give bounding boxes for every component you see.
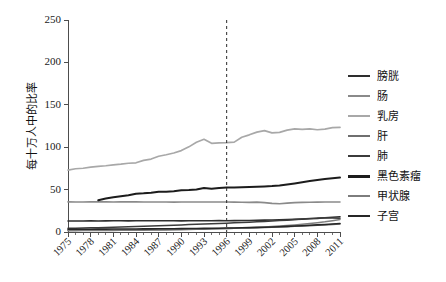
series-line bbox=[68, 202, 340, 204]
x-tick-label: 1990 bbox=[164, 236, 187, 259]
y-tick-label: 250 bbox=[45, 13, 62, 25]
x-tick-label: 2002 bbox=[255, 236, 278, 259]
legend-item[interactable]: 乳房 bbox=[348, 106, 444, 126]
x-tick-label: 1993 bbox=[187, 236, 210, 259]
legend-line-swatch bbox=[348, 175, 370, 178]
y-axis-label: 每十万人中的比率 bbox=[25, 82, 38, 170]
x-tick-label: 1981 bbox=[96, 236, 119, 259]
legend-item[interactable]: 甲状腺 bbox=[348, 186, 444, 206]
legend-item-label: 肺 bbox=[377, 151, 388, 162]
x-tick-label: 1999 bbox=[232, 236, 255, 259]
legend-item-label: 子宫 bbox=[377, 211, 399, 222]
legend-item-label: 甲状腺 bbox=[377, 191, 410, 202]
chart-legend: 膀胱肠乳房肝肺黑色素瘤甲状腺子宫 bbox=[348, 66, 444, 226]
legend-item[interactable]: 膀胱 bbox=[348, 66, 444, 86]
legend-item[interactable]: 子宫 bbox=[348, 206, 444, 226]
y-axis-ticks: 050100150200250 bbox=[45, 13, 69, 237]
y-tick-label: 100 bbox=[45, 140, 62, 152]
series-line bbox=[68, 127, 340, 170]
x-tick-label: 2011 bbox=[323, 236, 345, 258]
legend-line-swatch bbox=[348, 215, 370, 217]
svg-text:每十万人中的比率: 每十万人中的比率 bbox=[25, 82, 38, 170]
y-tick-label: 200 bbox=[45, 55, 62, 67]
legend-item[interactable]: 肝 bbox=[348, 126, 444, 146]
data-series bbox=[68, 127, 340, 230]
legend-item-label: 膀胱 bbox=[377, 71, 399, 82]
x-tick-label: 1978 bbox=[73, 236, 96, 259]
legend-line-swatch bbox=[348, 115, 370, 117]
x-tick-label: 1984 bbox=[119, 235, 142, 258]
legend-item[interactable]: 肺 bbox=[348, 146, 444, 166]
legend-line-swatch bbox=[348, 155, 370, 157]
legend-item[interactable]: 肠 bbox=[348, 86, 444, 106]
legend-line-swatch bbox=[348, 135, 370, 137]
legend-item[interactable]: 黑色素瘤 bbox=[348, 166, 444, 186]
x-tick-label: 1996 bbox=[209, 236, 232, 259]
x-tick-label: 2005 bbox=[277, 236, 300, 259]
series-line bbox=[98, 178, 340, 201]
x-tick-label: 1975 bbox=[51, 236, 74, 259]
y-tick-label: 150 bbox=[45, 98, 62, 110]
legend-item-label: 黑色素瘤 bbox=[377, 171, 421, 182]
legend-item-label: 肠 bbox=[377, 91, 388, 102]
legend-item-label: 乳房 bbox=[377, 111, 399, 122]
y-tick-label: 0 bbox=[56, 225, 62, 237]
x-axis-ticks: 1975197819811984198719901993199619992002… bbox=[51, 232, 346, 258]
legend-item-label: 肝 bbox=[377, 131, 388, 142]
x-tick-label: 1987 bbox=[141, 236, 164, 259]
legend-line-swatch bbox=[348, 195, 370, 197]
y-tick-label: 50 bbox=[50, 183, 62, 195]
legend-line-swatch bbox=[348, 95, 370, 97]
x-tick-label: 2008 bbox=[300, 236, 323, 259]
chart-figure: 每十万人中的比率 050100150200250 197519781981198… bbox=[0, 0, 446, 282]
legend-line-swatch bbox=[348, 75, 370, 77]
